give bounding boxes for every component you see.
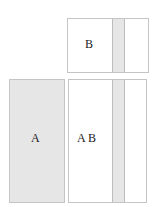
box-ab-label: A B xyxy=(77,132,96,144)
shaded-band xyxy=(112,80,125,202)
box-a-label: A xyxy=(31,132,40,144)
box-a: A xyxy=(9,79,65,203)
box-b-label: B xyxy=(85,38,93,50)
box-b: B xyxy=(67,18,149,73)
shaded-band xyxy=(112,19,125,72)
box-ab: A B xyxy=(68,79,147,203)
